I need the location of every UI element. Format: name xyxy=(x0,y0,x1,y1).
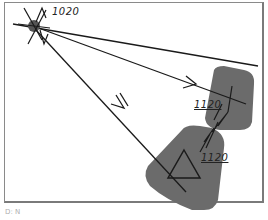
caption: D: N xyxy=(5,208,20,216)
diagram-canvas xyxy=(0,0,268,220)
origin-label: 1020 xyxy=(52,6,79,17)
target-zone-lower xyxy=(145,126,224,211)
upper-target-label: 1120 xyxy=(194,99,221,110)
lower-target-label: 1120 xyxy=(201,152,228,163)
